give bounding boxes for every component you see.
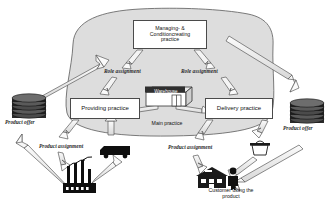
diagram-canvas: Managing- & Conditioncreating practice P… <box>0 0 336 210</box>
basket-icon <box>250 141 270 155</box>
box-delivery-label: Delivery practice <box>217 105 261 112</box>
product-assignment-left-label: Product assignment <box>39 143 83 149</box>
factory-icon <box>63 157 96 193</box>
box-delivery-practice[interactable]: Delivery practice <box>205 98 273 119</box>
warehouse-label: Warehouse <box>146 89 186 94</box>
main-practice-label: Main practice <box>137 121 197 127</box>
box-providing-label: Providing practice <box>81 105 129 112</box>
arrow-factory-to-truck <box>92 155 122 183</box>
managing-line-3: practice <box>161 36 179 42</box>
product-offer-left-label: Product offer <box>5 119 35 125</box>
product-offer-right-label: Product offer <box>283 125 313 131</box>
product-assignment-right-label: Product assignment <box>168 144 212 150</box>
role-assignment-right-label: Role assignment <box>181 68 218 74</box>
box-providing-practice[interactable]: Providing practice <box>70 98 140 119</box>
customer-line-2: product <box>222 193 239 199</box>
box-managing-label: Managing- & Conditioncreating practice <box>150 26 190 43</box>
customer-label: Customer using the product <box>196 188 266 200</box>
stack-of-discs-icon-left <box>12 94 46 118</box>
stack-of-discs-icon-right <box>290 99 324 123</box>
arrow-providing-to-product-assignment <box>59 120 79 139</box>
role-assignment-left-label: Role assignment <box>104 68 141 74</box>
box-managing-practice[interactable]: Managing- & Conditioncreating practice <box>133 20 207 49</box>
